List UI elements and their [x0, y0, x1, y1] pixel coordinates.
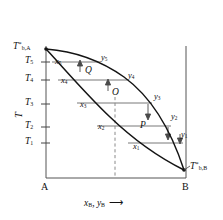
liquid-label-x1: x1 — [133, 142, 139, 151]
vapour-label-y2: y2 — [171, 112, 177, 121]
arrow-x3-to-y3-down — [145, 104, 150, 120]
arrow-y4-to-x4 — [105, 79, 110, 91]
axes-frame — [46, 46, 186, 178]
x-axis-corner-B: B — [182, 182, 189, 192]
boiling-point-A-label: T*b,A — [13, 41, 30, 52]
state-point-O: O — [112, 88, 119, 98]
y-tick-label-T5: T5 — [25, 56, 33, 66]
y-axis-title: T — [14, 112, 25, 118]
y-tick-label-T2: T2 — [25, 121, 33, 131]
dot-TbA — [44, 47, 48, 51]
x-axis-title: xB, yB⟶ — [84, 199, 123, 209]
vapour-label-y3: y3 — [154, 92, 160, 101]
y-tick-label-T1: T1 — [25, 137, 33, 147]
liquid-label-x5: x5 — [55, 57, 61, 66]
x-axis-corner-A: A — [41, 182, 48, 192]
liquid-label-x2: x2 — [98, 122, 104, 131]
liquid-label-x3: x3 — [80, 100, 86, 109]
vapour-label-y1: y1 — [181, 130, 187, 139]
liquid-label-x4: x4 — [61, 76, 67, 85]
y-tick-label-T3: T3 — [25, 98, 33, 108]
tie-lines — [52, 62, 183, 143]
phase-diagram-figure: T T5 T4 T3 T2 T1 T*b,A T*b,B A B xB, yB⟶… — [0, 0, 223, 220]
vapour-label-y4: y4 — [128, 71, 134, 80]
vapour-label-y5: y5 — [101, 53, 107, 62]
state-point-Q: Q — [85, 66, 92, 76]
phase-diagram-canvas — [0, 0, 223, 220]
y-tick-label-T4: T4 — [25, 74, 33, 84]
state-point-P: P — [140, 121, 146, 131]
boiling-point-B-label: T*b,B — [190, 161, 207, 172]
